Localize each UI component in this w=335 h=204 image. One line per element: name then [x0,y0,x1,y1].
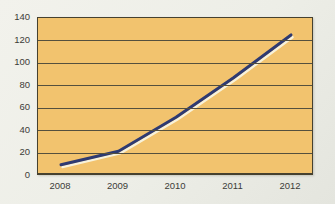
x-tick-label: 2012 [270,180,310,192]
x-tick-label: 2011 [213,180,253,192]
x-tick-label: 2008 [40,180,80,192]
series-line [61,35,291,165]
gridline-20 [38,153,312,154]
gridline-100 [38,63,312,64]
y-tick-label: 40 [0,124,30,136]
series-line [63,37,293,167]
y-axis: 020406080100120140 [0,17,33,175]
plot-area [37,17,313,175]
gridline-120 [38,40,312,41]
y-tick-label: 120 [0,34,30,46]
gridline-80 [38,85,312,86]
x-axis: 20082009201020112012 [37,180,313,194]
y-tick-label: 20 [0,146,30,158]
y-tick-label: 0 [0,169,30,181]
chart-page: 020406080100120140 20082009201020112012 [0,0,335,204]
y-tick-label: 60 [0,101,30,113]
gridline-40 [38,130,312,131]
y-tick-label: 100 [0,56,30,68]
line-chart: 020406080100120140 20082009201020112012 [0,0,335,204]
gridline-60 [38,108,312,109]
y-tick-label: 80 [0,79,30,91]
x-tick-label: 2009 [98,180,138,192]
y-tick-label: 140 [0,11,30,23]
x-tick-label: 2010 [155,180,195,192]
